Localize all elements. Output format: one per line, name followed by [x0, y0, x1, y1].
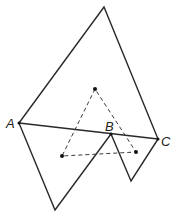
- diagram-canvas: A B C: [0, 0, 176, 220]
- point-c: [157, 138, 160, 141]
- point-a: [18, 122, 21, 125]
- upper-plane-outline: [19, 7, 158, 139]
- label-c: C: [161, 134, 171, 149]
- label-b: B: [105, 119, 114, 134]
- dashed-triangle: [62, 89, 136, 156]
- point-right: [134, 150, 138, 154]
- point-top: [93, 87, 97, 91]
- line-ac: [19, 123, 158, 139]
- point-left: [60, 154, 64, 158]
- label-a: A: [5, 116, 15, 131]
